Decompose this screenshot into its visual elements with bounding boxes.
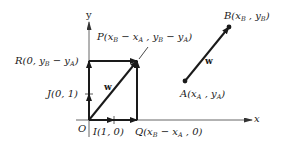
point-j-label: J(0, 1) <box>47 89 78 99</box>
point-b <box>227 25 232 30</box>
y-axis-label: y <box>86 10 92 20</box>
p-leader-line <box>139 47 148 59</box>
point-a <box>183 79 188 84</box>
vector-w-op-label: w <box>104 83 112 92</box>
point-b-label: B(xB , yB) <box>224 11 270 23</box>
origin-label: O <box>78 124 86 134</box>
point-r-label: R(0, yB − yA) <box>15 56 79 68</box>
point-a-label: A(xA , yA) <box>180 89 225 101</box>
point-i-label: I(1, 0) <box>93 127 124 137</box>
point-p-label: P(xB − xA , yB − yA) <box>97 32 192 44</box>
vector-w-ab-label: w <box>205 57 213 66</box>
x-axis-label: x <box>254 114 260 124</box>
vector-w-op <box>89 61 137 120</box>
point-q-label: Q(xB − xA , 0) <box>135 127 202 139</box>
vector-diagram: y x P(xB − xA , yB − yA) R(0, yB − yA) J… <box>0 0 288 152</box>
